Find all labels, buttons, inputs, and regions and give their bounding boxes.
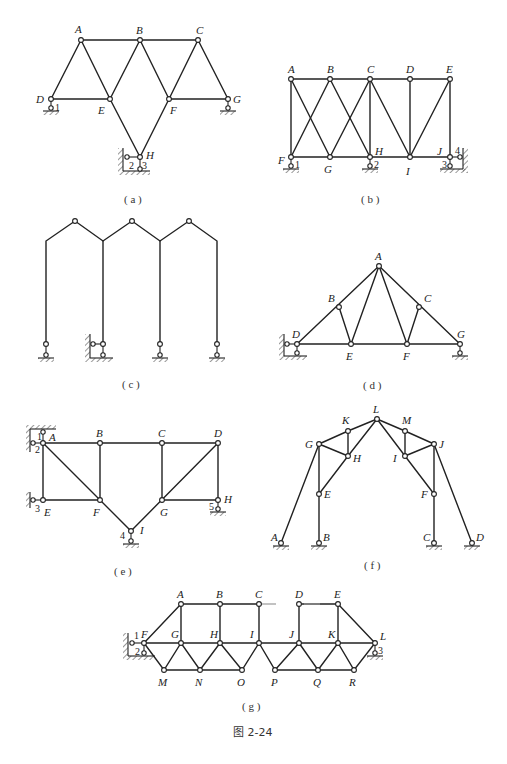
node-label: K (341, 414, 350, 426)
node-label: L (372, 403, 379, 415)
node-label: E (333, 588, 341, 600)
subfigure-caption: ( c ) (122, 378, 140, 391)
node-label: M (401, 414, 412, 426)
node-label: G (324, 163, 332, 175)
node-label: C (255, 588, 263, 600)
support-4 (123, 533, 139, 548)
node-label: D (294, 588, 303, 600)
node-label: K (327, 628, 336, 640)
node-label: C (196, 24, 204, 36)
node-label: A (176, 588, 184, 600)
subfigure-caption: ( d ) (363, 379, 382, 392)
node-label: E (323, 488, 331, 500)
node-label: D (35, 93, 44, 105)
subfigure-caption: ( b ) (361, 193, 380, 206)
node-label: H (352, 452, 362, 464)
subfigure-c: ( c ) (38, 219, 225, 391)
node-label: P (270, 676, 278, 688)
node-label: B (216, 588, 223, 600)
node-label: Q (313, 676, 321, 688)
node-label: A (74, 23, 82, 35)
subfigure-caption: ( e ) (114, 565, 132, 578)
node-label: F (169, 104, 177, 116)
node-label: D (213, 427, 222, 439)
node-label: E (43, 506, 51, 518)
node-label: J (289, 628, 295, 640)
node-label: H (209, 628, 219, 640)
node-label: J (439, 438, 445, 450)
node-label: E (97, 104, 105, 116)
subfigure-caption: ( f ) (364, 559, 381, 572)
node-label: R (348, 676, 356, 688)
node-label: F (140, 628, 148, 640)
subfigure-caption: ( a ) (124, 193, 142, 206)
support-number: 3 (442, 159, 447, 170)
node-label: C (423, 531, 431, 543)
supports-f (273, 546, 480, 550)
subfigure-e: A B C D E F G H I 1 2 3 4 5 ( e ) (26, 425, 233, 578)
node-label: H (374, 145, 384, 157)
node-label: G (233, 93, 241, 105)
subfigure-a: A B C D E F G H 1 2 3 ( a ) (35, 23, 241, 206)
support-col-2 (85, 334, 113, 362)
support-number: 2 (135, 646, 140, 657)
node-label: F (92, 506, 100, 518)
node-label: H (223, 493, 233, 505)
node-label: D (291, 328, 300, 340)
node-label: F (277, 154, 285, 166)
node-label: L (379, 630, 386, 642)
node-label: B (136, 24, 143, 36)
node-label: I (392, 452, 398, 464)
node-label: A (374, 250, 382, 262)
support-number: 4 (120, 530, 125, 541)
node-label: C (367, 63, 375, 75)
support-col-3 (152, 346, 168, 362)
figure-caption: 图 2-24 (233, 726, 272, 739)
joints-d (295, 264, 463, 347)
node-label: G (305, 438, 313, 450)
node-label: C (424, 292, 432, 304)
node-label: B (327, 63, 334, 75)
node-label: A (48, 431, 56, 443)
support-number: 2 (35, 444, 40, 455)
node-label: B (96, 427, 103, 439)
joints-c (44, 219, 220, 347)
node-label: B (328, 292, 335, 304)
node-label: E (345, 350, 353, 362)
node-label: A (287, 63, 295, 75)
support-number: 1 (295, 159, 300, 170)
support-number: 1 (37, 431, 42, 442)
support-number: 1 (55, 102, 60, 113)
support-col-1 (38, 346, 54, 362)
support-number: 5 (209, 501, 214, 512)
node-label: M (157, 676, 168, 688)
node-label: F (402, 350, 410, 362)
node-label: N (194, 676, 203, 688)
node-label: J (437, 145, 443, 157)
support-g (452, 346, 468, 360)
support-number: 1 (134, 630, 139, 641)
subfigure-f: L K M G J H I E F A B C D ( f ) (270, 403, 484, 572)
node-label: A (270, 531, 278, 543)
node-label: O (237, 676, 245, 688)
node-label: C (158, 427, 166, 439)
node-label: B (323, 531, 330, 543)
node-label: G (171, 628, 179, 640)
node-label: G (457, 328, 465, 340)
node-label: I (249, 628, 255, 640)
node-label: G (160, 506, 168, 518)
subfigure-d: A B C D E F G ( d ) (279, 250, 468, 392)
node-label: I (405, 165, 411, 177)
node-label: E (445, 63, 453, 75)
joints-e (41, 441, 221, 534)
node-label: I (139, 524, 145, 536)
subfigure-g: A B C D E F G H I J K L M N O P Q R 1 2 … (123, 588, 386, 713)
node-label: D (405, 63, 414, 75)
support-number: 4 (455, 145, 460, 156)
node-label: D (475, 531, 484, 543)
joints-f (279, 417, 475, 546)
truss-figure: A B C D E F G H 1 2 3 ( a ) (0, 0, 507, 764)
node-label: F (420, 488, 428, 500)
support-col-4 (209, 346, 225, 362)
subfigure-caption: ( g ) (242, 700, 261, 713)
